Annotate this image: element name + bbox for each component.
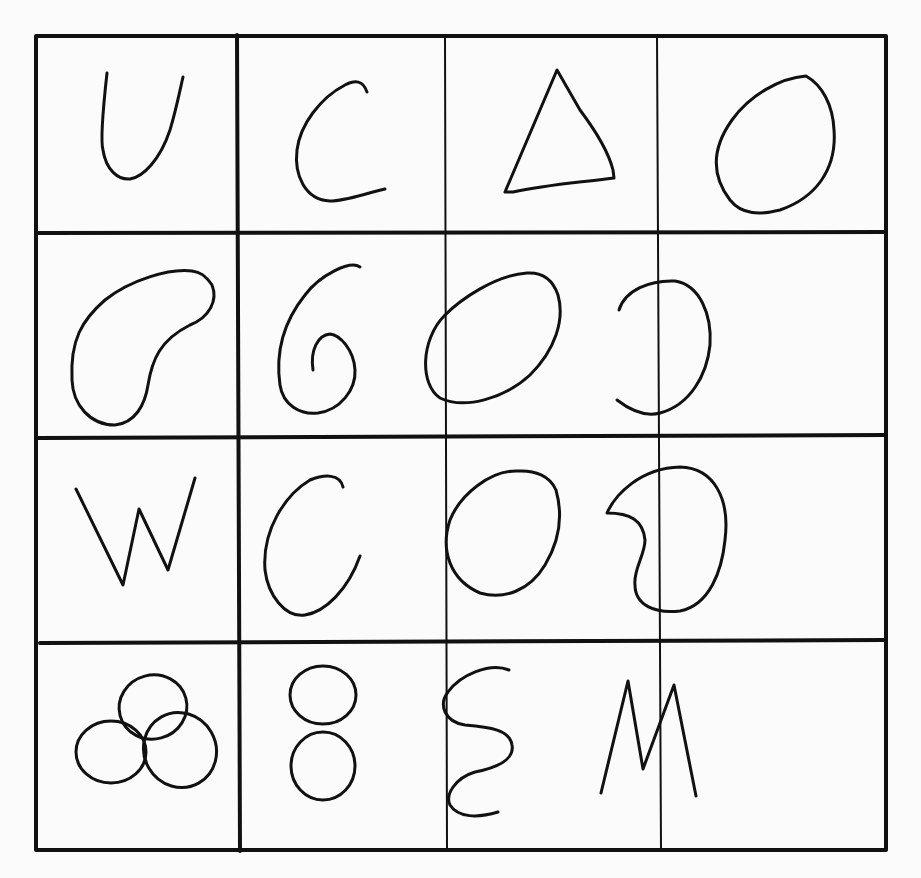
cell-1-4-oval xyxy=(716,76,834,213)
cell-4-1-three-circles xyxy=(76,667,230,801)
cell-2-1-bean-blob xyxy=(72,271,214,425)
cell-2-2-spiral-six xyxy=(279,265,360,413)
cell-3-2-c-letter xyxy=(265,476,360,615)
shape-grid xyxy=(0,0,921,878)
cell-3-4-kidney xyxy=(607,467,726,612)
cell-1-1-u-shape xyxy=(102,73,183,179)
cell-3-1-w-letter xyxy=(76,478,195,585)
cell-4-4-m-letter xyxy=(601,681,696,796)
cell-4-2-figure-eight xyxy=(290,666,356,800)
cell-3-3-egg-oval xyxy=(446,471,559,595)
cell-4-3-s-squiggle xyxy=(443,668,512,816)
grid-lines xyxy=(36,35,886,851)
cell-1-3-triangle xyxy=(505,70,614,192)
cell-2-4-reversed-c xyxy=(617,281,710,414)
cell-1-2-c-shape xyxy=(297,82,385,201)
